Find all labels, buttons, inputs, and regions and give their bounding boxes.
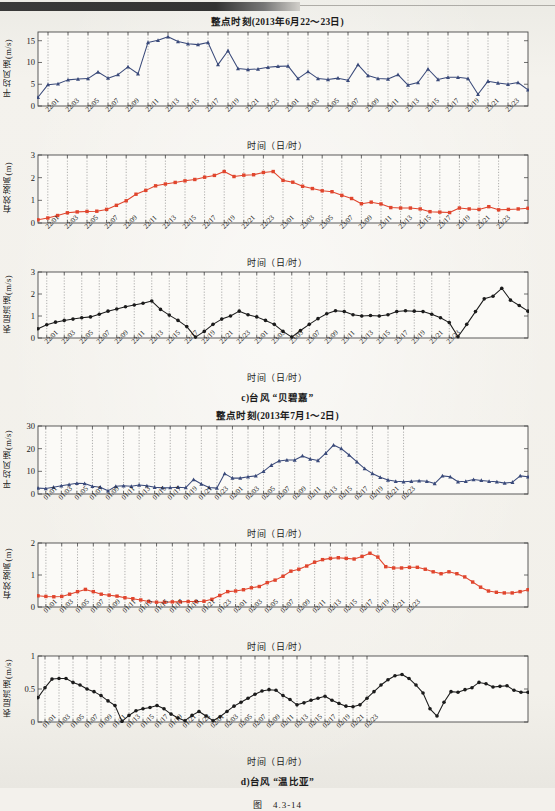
- yticks-c-current: 0123: [15, 269, 37, 339]
- ylabel-c-current: 表层流速(m/s): [0, 269, 15, 339]
- figure-number-label: 图: [253, 800, 263, 810]
- ytick-label: 2: [31, 289, 35, 299]
- chart-block-c-current: 表层流速(m/s) 0123 22/0122/0322/0522/0722/09…: [0, 269, 555, 384]
- yticks-d-wind: 0102030: [15, 423, 37, 495]
- xticks-c-wind: 22/0122/0322/0522/0722/0922/1122/1322/15…: [37, 107, 555, 141]
- xticks-d-wave: 01/0101/0301/0501/0701/0901/1101/1301/15…: [37, 608, 555, 642]
- ytick-label: 20: [27, 444, 36, 454]
- ytick-label: 3: [31, 267, 35, 277]
- plot-svg-c-wave: [37, 152, 529, 224]
- ytick-label: 0: [31, 333, 35, 343]
- figure-number: 图4.3-14: [0, 798, 555, 811]
- chart-block-d-wave: 有效波高(m) 012 01/0101/0301/0501/0701/0901/…: [0, 540, 555, 653]
- ytick-label: 1: [31, 195, 35, 205]
- ytick-label: 2: [31, 173, 35, 183]
- ylabel-d-current: 表层流速(m/s): [0, 653, 15, 723]
- ylabel-d-wave: 有效波高(m): [0, 540, 15, 608]
- plot-svg-d-wind: [37, 423, 529, 495]
- xticks-d-current: 01/0101/0301/0501/0701/0901/1101/1301/15…: [37, 723, 555, 757]
- plot-c-current: [37, 269, 555, 339]
- ylabel-d-wind: 平均风速(m/s): [0, 423, 15, 495]
- plot-c-wind: [37, 29, 555, 107]
- sub-caption-d: d)台风 “温比亚”: [0, 774, 555, 788]
- chart-block-c-wave: 有效波高(m) 0123 22/0122/0322/0522/0722/0922…: [0, 152, 555, 269]
- yticks-d-current: 00.51: [15, 653, 37, 723]
- chart-title-d: 整点时刻(2013年7月1～2日): [0, 408, 555, 422]
- plot-svg-d-current: [37, 653, 529, 723]
- sub-caption-c: c)台风 “贝碧嘉”: [0, 390, 555, 404]
- ytick-label: 30: [27, 421, 36, 431]
- yticks-c-wave: 0123: [15, 152, 37, 224]
- xticks-c-wave: 22/0122/0322/0522/0722/0922/1122/1322/15…: [37, 224, 555, 258]
- ylabel-c-wind: 平均风速(m/s): [0, 29, 15, 107]
- ytick-label: 0.5: [24, 684, 35, 694]
- chart-block-d-current: 表层流速(m/s) 00.51 01/0101/0301/0501/0701/0…: [0, 653, 555, 768]
- page-header-band: [0, 2, 300, 11]
- xticks-d-wind: 01/0101/0301/0501/0701/0901/1101/1301/15…: [37, 495, 555, 529]
- chart-title-c: 整点时刻(2013年6月22～23日): [0, 14, 555, 28]
- ytick-label: 0: [31, 602, 35, 612]
- ytick-label: 10: [27, 57, 36, 67]
- ylabel-c-wave: 有效波高(m): [0, 152, 15, 224]
- ytick-label: 10: [27, 466, 36, 476]
- yticks-d-wave: 012: [15, 540, 37, 608]
- plot-d-current: [37, 653, 555, 723]
- ytick-label: 3: [31, 150, 35, 160]
- ytick-label: 0: [31, 717, 35, 727]
- ytick-label: 1: [31, 570, 35, 580]
- yticks-c-wind: 051015: [15, 29, 37, 107]
- ytick-label: 0: [31, 489, 35, 499]
- chart-block-d-wind: 整点时刻(2013年7月1～2日) 平均风速(m/s) 0102030 01/0…: [0, 408, 555, 540]
- ytick-label: 15: [27, 36, 36, 46]
- plot-svg-c-wind: [37, 29, 529, 107]
- ytick-label: 1: [31, 311, 35, 321]
- ytick-label: 1: [31, 651, 35, 661]
- plot-svg-d-wave: [37, 540, 529, 608]
- figure-number-value: 4.3-14: [273, 800, 302, 810]
- chart-block-c-wind: 整点时刻(2013年6月22～23日) 平均风速(m/s) 051015 22/…: [0, 14, 555, 152]
- figure-4-3-14: 整点时刻(2013年6月22～23日) 平均风速(m/s) 051015 22/…: [0, 14, 555, 811]
- ytick-label: 5: [31, 79, 35, 89]
- ytick-label: 2: [31, 538, 35, 548]
- xticks-c-current: 22/0122/0322/0522/0722/0922/1122/1322/15…: [37, 339, 555, 373]
- ytick-label: 0: [31, 101, 35, 111]
- ytick-label: 0: [31, 218, 35, 228]
